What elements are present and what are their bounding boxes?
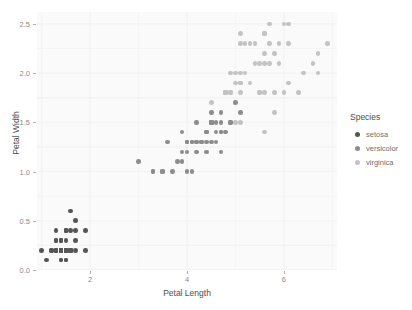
y-tick-mark [33, 24, 36, 25]
data-point [136, 159, 141, 164]
scatter-plot-figure: 0.00.51.01.52.02.5 246 Petal Length Peta… [0, 0, 412, 310]
y-tick-label: 0.5 [0, 217, 30, 226]
data-point [68, 228, 73, 233]
data-point [325, 41, 330, 46]
y-tick-mark [33, 221, 36, 222]
data-point [209, 120, 214, 125]
data-point [190, 169, 195, 174]
data-point [73, 238, 78, 243]
data-point [73, 218, 78, 223]
data-point [267, 41, 272, 46]
x-tick-mark [187, 271, 188, 274]
data-point [277, 61, 282, 66]
legend-label: setosa [366, 130, 388, 139]
data-point [262, 51, 267, 56]
data-point [175, 159, 180, 164]
y-tick-label: 0.0 [0, 266, 30, 275]
legend-items: setosaversicolorvirginica [350, 127, 412, 169]
data-point [64, 238, 69, 243]
data-point [296, 90, 301, 95]
data-point [73, 228, 78, 233]
data-point [238, 120, 243, 125]
data-point [272, 90, 277, 95]
data-point [262, 90, 267, 95]
data-point [39, 248, 44, 253]
legend-item-virginica[interactable]: virginica [350, 155, 412, 169]
legend-key-icon [350, 127, 364, 141]
data-point [238, 110, 243, 115]
y-tick-mark [33, 172, 36, 173]
data-point [68, 248, 73, 253]
data-point [199, 140, 204, 145]
y-axis-title: Petal Width [11, 93, 21, 173]
data-point [262, 31, 267, 36]
legend-label: virginica [366, 158, 394, 167]
x-tick-mark [284, 271, 285, 274]
legend-dot-icon [355, 146, 360, 151]
data-point [209, 140, 214, 145]
data-point [286, 41, 291, 46]
data-point [267, 61, 272, 66]
data-point [214, 120, 219, 125]
data-point [301, 71, 306, 76]
legend-dot-icon [355, 160, 360, 165]
data-point [49, 248, 54, 253]
legend-title: Species [350, 112, 412, 122]
y-tick-mark [33, 122, 36, 123]
data-point [238, 31, 243, 36]
data-point [170, 169, 175, 174]
data-point [316, 51, 321, 56]
x-tick-label: 6 [269, 275, 299, 284]
data-point [233, 71, 238, 76]
data-point [73, 248, 78, 253]
data-point [238, 90, 243, 95]
data-point [233, 100, 238, 105]
legend-label: versicolor [366, 144, 398, 153]
y-tick-mark [33, 270, 36, 271]
data-point [262, 61, 267, 66]
data-point [238, 71, 243, 76]
data-point [185, 169, 190, 174]
y-tick-mark [33, 73, 36, 74]
data-point [272, 51, 277, 56]
data-point [59, 238, 64, 243]
data-point [194, 120, 199, 125]
data-point [219, 120, 224, 125]
legend-key-icon [350, 155, 364, 169]
data-point [204, 150, 209, 155]
data-point [209, 110, 214, 115]
data-point [194, 150, 199, 155]
data-point [267, 22, 272, 27]
data-point [165, 140, 170, 145]
legend-item-versicolor[interactable]: versicolor [350, 141, 412, 155]
data-point [83, 228, 88, 233]
data-point [286, 22, 291, 27]
y-tick-label: 2.5 [0, 20, 30, 29]
data-point [204, 130, 209, 135]
legend-item-setosa[interactable]: setosa [350, 127, 412, 141]
data-point [311, 61, 316, 66]
legend-key-icon [350, 141, 364, 155]
data-point [238, 81, 243, 86]
legend-dot-icon [355, 132, 360, 137]
data-point [64, 228, 69, 233]
data-point [219, 110, 224, 115]
data-point [248, 41, 253, 46]
y-tick-label: 2.0 [0, 69, 30, 78]
legend: Species setosaversicolorvirginica [350, 112, 412, 169]
data-point [277, 41, 282, 46]
x-axis-title: Petal Length [37, 288, 337, 298]
data-point [59, 248, 64, 253]
data-point [228, 90, 233, 95]
data-point [160, 169, 165, 174]
data-point [253, 41, 258, 46]
x-tick-label: 2 [75, 275, 105, 284]
data-point [253, 61, 258, 66]
data-point [64, 248, 69, 253]
data-point [68, 209, 73, 214]
data-point [54, 248, 59, 253]
data-point [204, 140, 209, 145]
data-point [238, 41, 243, 46]
x-tick-label: 4 [172, 275, 202, 284]
x-tick-mark [90, 271, 91, 274]
